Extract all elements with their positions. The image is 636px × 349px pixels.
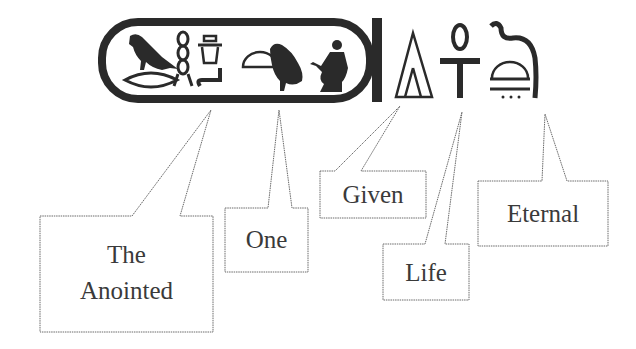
jar-on-stand-icon — [198, 36, 222, 86]
twisted-flax-icon — [174, 32, 192, 86]
cobra-basket-icon — [490, 23, 536, 98]
label-anointed-line1: The — [40, 240, 213, 270]
label-anointed: The Anointed — [40, 240, 213, 306]
label-life: Life — [383, 258, 469, 288]
vulture-bird-icon — [125, 34, 178, 87]
quail-chick-icon — [270, 44, 303, 98]
label-given: Given — [320, 180, 426, 210]
label-one: One — [225, 225, 308, 255]
label-eternal: Eternal — [478, 199, 608, 229]
label-anointed-line2: Anointed — [40, 276, 213, 306]
ankh-icon — [440, 25, 480, 98]
seated-man-icon — [310, 40, 348, 92]
triangular-cone-icon — [396, 33, 432, 97]
